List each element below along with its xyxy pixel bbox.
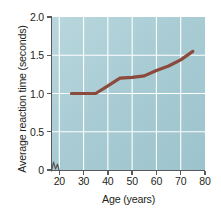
x-tick-mark: [59, 171, 60, 175]
x-tick-mark: [204, 171, 205, 175]
y-axis-title: Average reaction time (seconds): [16, 19, 28, 179]
x-axis-title: Age (years): [52, 193, 205, 205]
x-tick-mark: [156, 171, 157, 175]
plot-area: [52, 17, 205, 170]
x-tick-label: 80: [199, 175, 210, 187]
y-tick-mark: [47, 55, 51, 56]
x-tick-mark: [180, 171, 181, 175]
x-tick-label: 60: [151, 175, 162, 187]
y-tick-mark: [47, 93, 51, 94]
y-tick-mark: [47, 16, 51, 17]
x-tick-mark: [131, 171, 132, 175]
data-series-line: [52, 17, 205, 170]
y-tick-label: 0.5: [30, 126, 44, 138]
x-axis-line: [51, 170, 205, 171]
y-tick-label: 1.0: [30, 88, 44, 100]
y-tick-label: 2.0: [30, 11, 44, 23]
x-tick-label: 40: [102, 175, 113, 187]
x-tick-mark: [107, 171, 108, 175]
y-tick-mark: [47, 131, 51, 132]
y-tick-label: 1.5: [30, 49, 44, 61]
y-axis-line: [51, 16, 52, 171]
x-tick-label: 70: [175, 175, 186, 187]
x-tick-label: 50: [127, 175, 138, 187]
y-tick-mark: [47, 169, 51, 170]
reaction-time-chart: Average reaction time (seconds) 00.51.01…: [0, 0, 221, 216]
x-tick-label: 20: [54, 175, 65, 187]
x-tick-label: 30: [78, 175, 89, 187]
x-tick-mark: [83, 171, 84, 175]
axis-break-icon: [50, 158, 64, 172]
y-tick-label: 0: [38, 164, 44, 176]
